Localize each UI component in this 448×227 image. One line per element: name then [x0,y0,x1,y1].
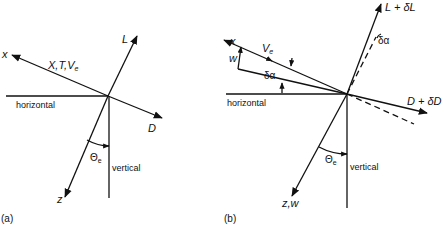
theta-arc [319,147,347,154]
vertical-label: vertical [350,162,379,172]
vertical-label: vertical [112,163,141,173]
velocity-arrow [270,60,272,61]
caption-b: (b) [224,213,236,224]
delta-alpha-tick-top [291,58,292,66]
x-label: x [1,48,8,60]
panel-b-labels: x Ve w δα δα L + δL D + δD horizontal ve… [224,1,442,224]
horizontal-label: horizontal [16,100,55,110]
panel-a-labels: x X,T,Ve L D horizontal vertical Θe z (a… [1,33,156,224]
theta-label: Θe [325,154,337,166]
lift-label: L [122,33,128,45]
lift-arrow [108,36,137,96]
z-label: z [56,193,63,205]
x-label: x [229,35,236,47]
lift-arrow [347,4,381,94]
w-arrow [238,47,241,69]
velocity-label: Ve [262,42,273,55]
delta-alpha-label: δα [264,70,276,81]
z-label: z,w [281,197,300,209]
caption-a: (a) [1,213,13,224]
drag-label: D [148,122,156,134]
theta-arc [87,140,109,146]
x-axis-arrow [224,40,347,94]
z-axis-arrow [65,96,108,197]
w-label: w [229,52,238,64]
theta-label: Θe [90,152,102,164]
drag-arrow [108,96,162,118]
panel-a [6,36,162,198]
diagram-canvas: x X,T,Ve L D horizontal vertical Θe z (a… [0,0,448,227]
x-vector-label: X,T,Ve [47,59,79,72]
horizontal-label: horizontal [227,98,266,108]
lift-dashed [347,37,376,94]
drag-dashed [347,94,414,124]
drag-label: D + δD [407,95,442,107]
z-axis-arrow [292,94,347,196]
relative-wind-line [238,69,347,94]
lift-label: L + δL [385,1,416,13]
delta-alpha-top-label: δα [378,35,390,46]
